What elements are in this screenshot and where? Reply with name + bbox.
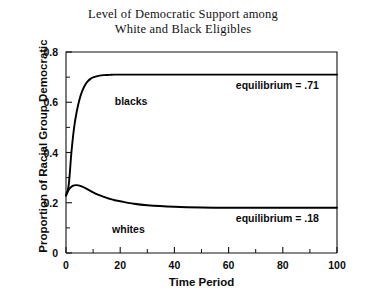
chart-title-line-1: Level of Democratic Support among <box>0 7 366 22</box>
x-axis-label: Time Period <box>66 276 337 288</box>
chart-title: Level of Democratic Support among White … <box>0 7 366 37</box>
x-tick-label: 0 <box>63 259 69 271</box>
plot-area: 02040608010000.20.40.60.8 equilibrium = … <box>0 0 366 305</box>
chart-figure: Level of Democratic Support among White … <box>0 0 366 305</box>
curves-layer <box>66 75 337 208</box>
blacks-equilibrium: equilibrium = .71 <box>236 79 319 91</box>
x-tick-label: 40 <box>169 259 181 271</box>
y-tick-label: 0 <box>52 247 58 259</box>
chart-title-line-2: White and Black Eligibles <box>0 22 366 37</box>
annotations-layer: equilibrium = .71equilibrium = .18blacks… <box>111 79 319 235</box>
x-tick-label: 100 <box>328 259 346 271</box>
whites-equilibrium: equilibrium = .18 <box>236 212 319 224</box>
y-axis-label: Proportion of Racial Group Democratic <box>37 31 49 261</box>
series-line-blacks <box>66 75 337 196</box>
x-tick-label: 60 <box>223 259 235 271</box>
series-line-whites <box>66 185 337 208</box>
blacks-curve-label: blacks <box>115 95 148 107</box>
x-tick-label: 20 <box>114 259 126 271</box>
x-tick-label: 80 <box>277 259 289 271</box>
whites-curve-label: whites <box>111 223 145 235</box>
